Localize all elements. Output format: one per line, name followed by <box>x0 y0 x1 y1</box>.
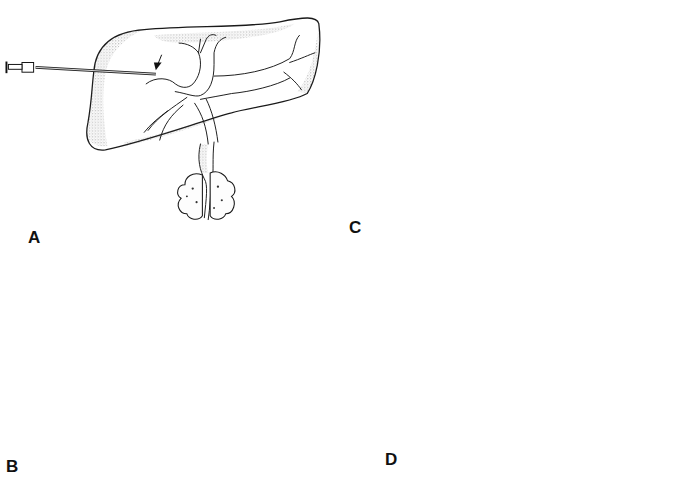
panel-label-b: B <box>6 458 18 475</box>
liver-drawing <box>87 18 320 150</box>
figure-canvas <box>0 0 681 480</box>
panel-label-c: C <box>349 219 361 236</box>
panel-a <box>6 18 319 220</box>
panel-label-d: D <box>385 451 397 468</box>
panel-label-a: A <box>28 229 40 246</box>
